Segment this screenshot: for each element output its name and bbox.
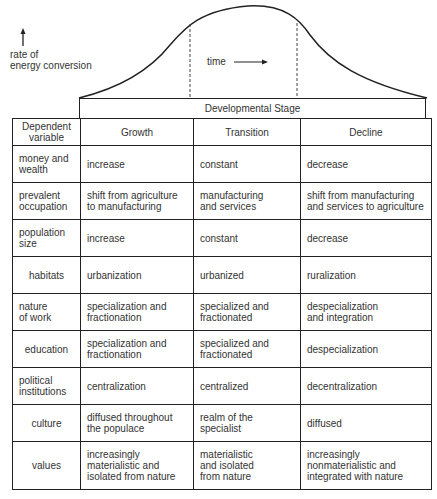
cell-line: education bbox=[19, 344, 74, 355]
cell-line: shift from agriculture bbox=[87, 190, 187, 201]
cell-line: culture bbox=[19, 418, 74, 429]
cell-line: to manufacturing bbox=[87, 201, 187, 212]
decline-cell: decrease bbox=[301, 146, 432, 183]
cell-line: political bbox=[19, 375, 74, 386]
transition-cell: urbanized bbox=[194, 257, 301, 294]
cell-line: institutions bbox=[19, 386, 74, 397]
cell-line: and isolated bbox=[200, 460, 294, 471]
cell-line: specialized and bbox=[200, 301, 294, 312]
header-decline: Decline bbox=[301, 119, 432, 146]
cell-line: decentralization bbox=[307, 381, 425, 392]
growth-cell: increasinglymaterialistic andisolated fr… bbox=[81, 442, 194, 490]
cell-line: prevalent bbox=[19, 190, 74, 201]
cell-line: manufacturing bbox=[200, 190, 294, 201]
cell-line: of work bbox=[19, 312, 74, 323]
decline-cell: despecialization bbox=[301, 331, 432, 368]
cell-line: money and bbox=[19, 153, 74, 164]
cell-line: materialistic and bbox=[87, 460, 187, 471]
cell-line: constant bbox=[200, 233, 294, 244]
growth-cell: specialization andfractionation bbox=[81, 294, 194, 331]
header-growth: Growth bbox=[81, 119, 194, 146]
transition-cell: materialisticand isolatedfrom nature bbox=[194, 442, 301, 490]
cell-line: shift from manufacturing bbox=[307, 190, 425, 201]
decline-cell: despecializationand integration bbox=[301, 294, 432, 331]
cell-line: realm of the bbox=[200, 412, 294, 423]
developmental-stage-header: Developmental Stage bbox=[79, 98, 426, 118]
header-dependent-variable: Dependentvariable bbox=[13, 119, 81, 146]
cell-line: wealth bbox=[19, 164, 74, 175]
cell-line: urbanized bbox=[200, 270, 294, 281]
cell-line: constant bbox=[200, 159, 294, 170]
dependent-variables-table: Dependentvariable Growth Transition Decl… bbox=[12, 118, 432, 490]
cell-line: decrease bbox=[307, 233, 425, 244]
cell-line: materialistic bbox=[200, 449, 294, 460]
variable-cell: education bbox=[13, 331, 81, 368]
cell-line: despecialization bbox=[307, 301, 425, 312]
cell-line: nonmaterialistic and bbox=[307, 460, 425, 471]
cell-line: nature bbox=[19, 301, 74, 312]
decline-cell: diffused bbox=[301, 405, 432, 442]
cell-line: the populace bbox=[87, 423, 187, 434]
table-row: money andwealthincreaseconstantdecrease bbox=[13, 146, 432, 183]
cell-line: increase bbox=[87, 233, 187, 244]
variable-cell: money andwealth bbox=[13, 146, 81, 183]
cell-line: fractionated bbox=[200, 349, 294, 360]
variable-cell: natureof work bbox=[13, 294, 81, 331]
cell-line: fractionation bbox=[87, 349, 187, 360]
cell-line: and integration bbox=[307, 312, 425, 323]
transition-cell: constant bbox=[194, 220, 301, 257]
cell-line: and services to agriculture bbox=[307, 201, 425, 212]
growth-cell: shift from agricultureto manufacturing bbox=[81, 183, 194, 220]
transition-cell: centralized bbox=[194, 368, 301, 405]
transition-cell: specialized andfractionated bbox=[194, 331, 301, 368]
table-row: politicalinstitutionscentralizationcentr… bbox=[13, 368, 432, 405]
cell-line: increase bbox=[87, 159, 187, 170]
transition-cell: realm of thespecialist bbox=[194, 405, 301, 442]
cell-line: centralization bbox=[87, 381, 187, 392]
growth-cell: specialization andfractionation bbox=[81, 331, 194, 368]
decline-cell: ruralization bbox=[301, 257, 432, 294]
cell-line: population bbox=[19, 227, 74, 238]
decline-cell: decrease bbox=[301, 220, 432, 257]
cell-line: fractionation bbox=[87, 312, 187, 323]
cell-line: occupation bbox=[19, 201, 74, 212]
cell-line: values bbox=[19, 460, 74, 471]
table-row: habitatsurbanizationurbanizedruralizatio… bbox=[13, 257, 432, 294]
growth-cell: urbanization bbox=[81, 257, 194, 294]
cell-line: fractionated bbox=[200, 312, 294, 323]
cell-line: increasingly bbox=[307, 449, 425, 460]
cell-line: specialization and bbox=[87, 301, 187, 312]
growth-cell: centralization bbox=[81, 368, 194, 405]
table-header-row: Dependentvariable Growth Transition Decl… bbox=[13, 119, 432, 146]
variable-cell: politicalinstitutions bbox=[13, 368, 81, 405]
cell-line: specialist bbox=[200, 423, 294, 434]
table-row: valuesincreasinglymaterialistic andisola… bbox=[13, 442, 432, 490]
growth-cell: increase bbox=[81, 146, 194, 183]
variable-cell: habitats bbox=[13, 257, 81, 294]
cell-line: size bbox=[19, 238, 74, 249]
variable-cell: values bbox=[13, 442, 81, 490]
cell-line: from nature bbox=[200, 471, 294, 482]
variable-cell: culture bbox=[13, 405, 81, 442]
decline-cell: decentralization bbox=[301, 368, 432, 405]
bell-curve bbox=[79, 6, 427, 98]
y-axis-label: rate of energy conversion bbox=[10, 49, 92, 71]
y-axis-label-line-1: rate of bbox=[10, 49, 92, 60]
cell-line: habitats bbox=[19, 270, 74, 281]
cell-line: diffused bbox=[307, 418, 425, 429]
transition-cell: specialized andfractionated bbox=[194, 294, 301, 331]
decline-cell: increasinglynonmaterialistic andintegrat… bbox=[301, 442, 432, 490]
variable-cell: populationsize bbox=[13, 220, 81, 257]
variable-cell: prevalentoccupation bbox=[13, 183, 81, 220]
right-arrow-icon bbox=[234, 60, 268, 65]
time-label: time bbox=[207, 56, 226, 67]
transition-cell: manufacturingand services bbox=[194, 183, 301, 220]
table-row: prevalentoccupationshift from agricultur… bbox=[13, 183, 432, 220]
y-axis-label-line-2: energy conversion bbox=[10, 60, 92, 71]
cell-line: despecialization bbox=[307, 344, 425, 355]
growth-cell: increase bbox=[81, 220, 194, 257]
table-row: culturediffused throughoutthe populacere… bbox=[13, 405, 432, 442]
cell-line: integrated with nature bbox=[307, 471, 425, 482]
cell-line: specialized and bbox=[200, 338, 294, 349]
table-row: natureof workspecialization andfractiona… bbox=[13, 294, 432, 331]
